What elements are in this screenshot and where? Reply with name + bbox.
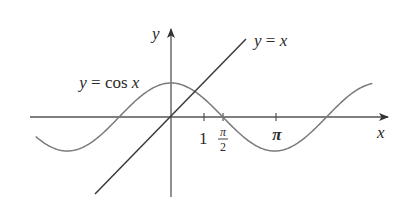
cosine-label-eq: = cos	[87, 73, 132, 92]
identity-label-lhs: y	[252, 31, 262, 50]
cosine-label-var: x	[131, 73, 140, 92]
tick-label-pi: π	[272, 125, 282, 144]
identity-label-eq: =	[262, 31, 280, 50]
cosine-label: y = cos x	[58, 73, 152, 92]
identity-label: y = x	[252, 31, 288, 50]
tick-label-pi-over-2-numerator: π	[220, 125, 227, 139]
x-axis-label: x	[376, 123, 385, 142]
cosine-label-lhs: y	[77, 73, 87, 92]
tick-label-1: 1	[199, 129, 208, 148]
y-axis-label: y	[150, 24, 160, 43]
identity-label-var: x	[279, 31, 288, 50]
tick-label-pi-over-2-denominator: 2	[220, 140, 226, 154]
tick-label-pi-over-2: π 2	[218, 125, 228, 154]
diagram-canvas: y x y = x y = cos x 1 π 2 π	[0, 0, 409, 203]
